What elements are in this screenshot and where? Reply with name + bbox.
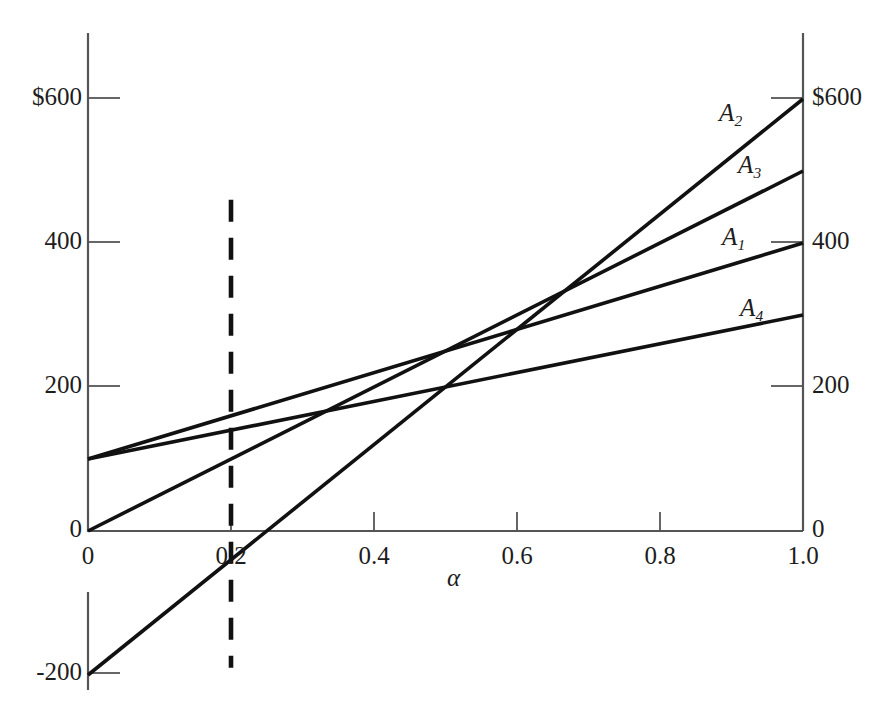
series-label-A1-text: A — [722, 223, 737, 250]
y-tick-label-left-0: 0 — [0, 516, 82, 541]
x-tick-label-0.4: 0.4 — [334, 543, 414, 568]
x-tick-label-0.2: 0.2 — [191, 543, 271, 568]
series-label-A2-text: A — [719, 99, 734, 126]
y-tick-label-left-400: 400 — [0, 228, 82, 253]
series-label-A3-text: A — [738, 151, 753, 178]
y-tick-label-right-200: 200 — [812, 372, 850, 397]
chart-figure: $600 400 200 0 -200 $600 400 200 0 0 0.2… — [0, 0, 880, 714]
chart-canvas — [0, 0, 880, 714]
series-label-A2: A2 — [719, 100, 742, 125]
series-label-A3: A3 — [738, 152, 761, 177]
y-tick-label-left-200: 200 — [0, 372, 82, 397]
x-tick-label-0.6: 0.6 — [477, 543, 557, 568]
y-tick-label-left-600: $600 — [0, 84, 82, 109]
y-tick-label-right-0: 0 — [812, 516, 825, 541]
series-lines-group — [88, 99, 803, 675]
series-label-A1: A1 — [722, 224, 745, 249]
series-label-A3-subscript: 3 — [754, 164, 762, 181]
axes-group — [88, 33, 803, 690]
series-label-A2-subscript: 2 — [735, 112, 743, 129]
y-tick-label-right-400: 400 — [812, 228, 850, 253]
series-label-A4-text: A — [740, 294, 755, 321]
series-line-A4 — [88, 315, 803, 459]
series-label-A1-subscript: 1 — [738, 236, 746, 253]
series-line-A3 — [88, 171, 803, 531]
x-axis-title: α — [447, 565, 460, 590]
series-label-A4: A4 — [740, 295, 763, 320]
x-tick-label-0: 0 — [48, 543, 128, 568]
y-tick-label-right-600: $600 — [812, 84, 862, 109]
y-tick-label-left-minus200: -200 — [0, 659, 82, 684]
series-label-A4-subscript: 4 — [756, 307, 764, 324]
x-tick-label-0.8: 0.8 — [620, 543, 700, 568]
x-tick-label-1.0: 1.0 — [763, 543, 843, 568]
